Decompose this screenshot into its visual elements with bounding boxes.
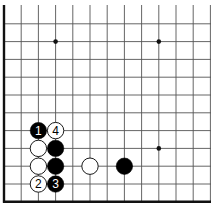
stones: 1423 [30,122,132,192]
star-point-icon [53,39,58,44]
move-number: 1 [35,124,42,138]
white-stone-icon [30,140,46,156]
black-stone [47,158,63,174]
go-board: 1423 [0,0,215,210]
black-stone-icon [116,158,132,174]
white-stone: 2 [30,176,46,192]
star-point-icon [157,39,162,44]
move-number: 2 [35,177,42,191]
white-stone: 4 [47,122,63,138]
star-point-icon [157,146,162,151]
move-number: 3 [52,177,59,191]
black-stone-icon [47,158,63,174]
white-stone [82,158,98,174]
white-stone [30,158,46,174]
white-stone-icon [82,158,98,174]
black-stone: 3 [47,176,63,192]
black-stone: 1 [30,122,46,138]
black-stone-icon [47,140,63,156]
move-number: 4 [52,124,59,138]
black-stone [116,158,132,174]
white-stone-icon [30,158,46,174]
white-stone [30,140,46,156]
black-stone [47,140,63,156]
